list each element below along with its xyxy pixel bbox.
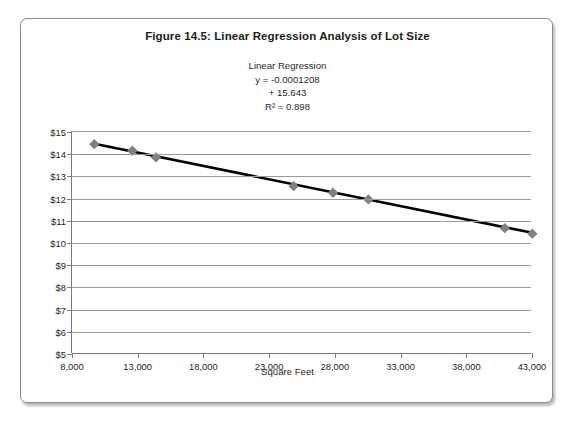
figure-frame: Figure 14.5: Linear Regression Analysis … bbox=[20, 18, 553, 403]
y-axis-tick bbox=[67, 199, 72, 200]
y-axis-tick bbox=[67, 132, 72, 133]
gridline bbox=[72, 176, 531, 177]
y-axis-tick-label: $14 bbox=[50, 149, 66, 160]
data-point-marker bbox=[89, 139, 99, 149]
y-axis-tick bbox=[67, 310, 72, 311]
x-axis-tick bbox=[269, 353, 270, 358]
y-axis-tick-label: $11 bbox=[51, 215, 66, 226]
gridline bbox=[72, 265, 531, 266]
y-axis-tick-label: $9 bbox=[56, 260, 66, 271]
y-axis-tick-label: $7 bbox=[56, 304, 66, 315]
data-point-marker bbox=[500, 223, 510, 233]
y-axis-tick bbox=[67, 332, 72, 333]
gridline bbox=[72, 221, 531, 222]
gridline bbox=[72, 332, 531, 333]
y-axis-tick bbox=[67, 154, 72, 155]
gridline bbox=[72, 154, 531, 155]
x-axis-tick bbox=[138, 353, 139, 358]
x-axis-tick bbox=[466, 353, 467, 358]
y-axis-tick bbox=[67, 265, 72, 266]
x-axis-tick bbox=[401, 353, 402, 358]
y-axis-tick-label: $6 bbox=[56, 326, 66, 337]
y-axis-tick bbox=[67, 243, 72, 244]
plot-wrapper: $5$6$7$8$9$10$11$12$13$14$158,00013,0001… bbox=[21, 19, 554, 404]
x-axis-tick bbox=[532, 353, 533, 358]
y-axis-tick-label: $12 bbox=[50, 193, 66, 204]
x-axis-title: Square Feet bbox=[21, 366, 554, 377]
y-axis-tick-label: $10 bbox=[50, 238, 66, 249]
y-axis-tick-label: $5 bbox=[56, 349, 66, 360]
y-axis-tick bbox=[67, 176, 72, 177]
y-axis-tick-label: $13 bbox=[50, 171, 66, 182]
gridline bbox=[72, 310, 531, 311]
gridline bbox=[72, 243, 531, 244]
data-point-marker bbox=[527, 228, 537, 238]
y-axis-tick-label: $8 bbox=[56, 282, 66, 293]
gridline bbox=[72, 353, 531, 354]
x-axis-tick bbox=[335, 353, 336, 358]
x-axis-tick bbox=[72, 353, 73, 358]
gridline bbox=[72, 287, 531, 288]
plot-area: $5$6$7$8$9$10$11$12$13$14$158,00013,0001… bbox=[71, 131, 531, 353]
data-point-marker bbox=[328, 188, 338, 198]
gridline bbox=[72, 199, 531, 200]
y-axis-tick bbox=[67, 221, 72, 222]
y-axis-tick-label: $15 bbox=[50, 127, 66, 138]
x-axis-tick bbox=[203, 353, 204, 358]
y-axis-tick bbox=[67, 287, 72, 288]
